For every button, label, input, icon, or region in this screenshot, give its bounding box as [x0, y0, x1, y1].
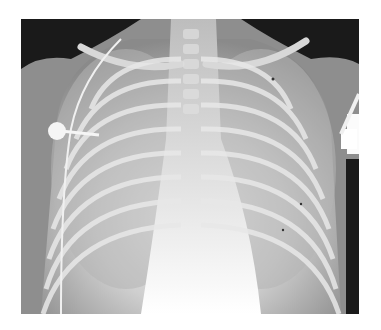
xray-illustration	[21, 19, 359, 314]
chest-xray-image	[21, 19, 359, 314]
